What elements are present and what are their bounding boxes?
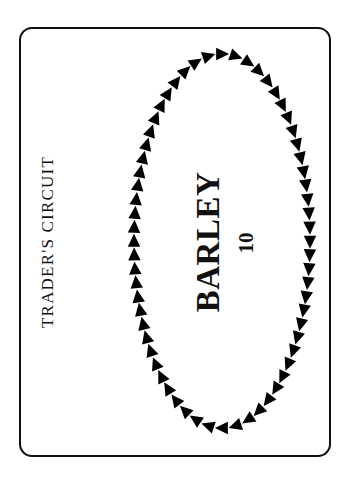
triangle-arrow-icon xyxy=(128,220,141,233)
triangle-arrow-icon xyxy=(303,249,316,262)
resource-value: 10 xyxy=(234,233,259,254)
triangle-arrow-icon xyxy=(293,151,308,166)
triangle-arrow-icon xyxy=(131,177,145,192)
triangle-arrow-icon xyxy=(227,418,243,434)
triangle-arrow-icon xyxy=(215,422,228,434)
triangle-arrow-icon xyxy=(128,247,141,260)
triangle-arrow-icon xyxy=(128,205,141,219)
triangle-arrow-icon xyxy=(135,315,150,330)
triangle-arrow-icon xyxy=(280,110,296,127)
triangle-arrow-icon xyxy=(133,163,148,178)
triangle-arrow-icon xyxy=(299,179,313,194)
triangle-arrow-icon xyxy=(285,343,301,359)
triangle-arrow-icon xyxy=(143,122,159,138)
triangle-arrow-icon xyxy=(289,330,305,346)
triangle-arrow-icon xyxy=(290,137,306,153)
triangle-arrow-icon xyxy=(129,275,143,289)
resource-name: BARLEY xyxy=(190,172,227,313)
triangle-arrow-icon xyxy=(301,193,315,207)
triangle-arrow-icon xyxy=(201,48,217,64)
triangle-arrow-icon xyxy=(133,302,148,317)
triangle-arrow-icon xyxy=(301,276,315,290)
triangle-arrow-icon xyxy=(302,263,315,277)
triangle-arrow-icon xyxy=(286,124,302,140)
triangle-arrow-icon xyxy=(297,165,312,180)
triangle-arrow-icon xyxy=(299,290,313,305)
triangle-arrow-icon xyxy=(139,329,155,345)
triangle-arrow-icon xyxy=(129,191,143,205)
triangle-arrow-icon xyxy=(296,303,311,318)
triangle-arrow-icon xyxy=(216,48,229,60)
triangle-arrow-icon xyxy=(293,317,308,333)
triangle-arrow-icon xyxy=(128,261,141,275)
triangle-arrow-icon xyxy=(139,136,155,152)
triangle-arrow-icon xyxy=(303,221,316,234)
card-title: TRADER'S CIRCUIT xyxy=(38,156,58,328)
triangle-arrow-icon xyxy=(302,207,315,221)
triangle-arrow-icon xyxy=(136,149,151,165)
triangle-arrow-icon xyxy=(304,236,316,249)
triangle-arrow-icon xyxy=(142,342,158,358)
triangle-arrow-icon xyxy=(147,355,163,372)
triangle-arrow-icon xyxy=(131,289,145,304)
triangle-arrow-icon xyxy=(128,234,140,247)
